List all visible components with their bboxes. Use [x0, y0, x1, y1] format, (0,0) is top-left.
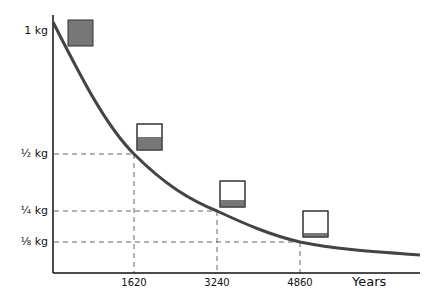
decay-curve [53, 22, 420, 255]
x-label-4860: 4860 [280, 277, 320, 288]
y-label-1kg: 1 kg [2, 24, 48, 37]
sample-box-4 [303, 211, 328, 237]
sample-box-1 [68, 20, 93, 46]
x-label-3240: 3240 [197, 277, 237, 288]
x-axis-title: Years [352, 274, 386, 289]
guide-lines [54, 154, 300, 273]
y-label-eighth: ⅛ kg [2, 235, 48, 248]
y-label-half: ½ kg [2, 147, 48, 160]
sample-box-2 [137, 124, 162, 150]
sample-box-3 [220, 181, 245, 207]
y-label-quarter: ¼ kg [2, 204, 48, 217]
x-label-1620: 1620 [114, 277, 154, 288]
decay-chart: 1 kg ½ kg ¼ kg ⅛ kg 1620 3240 4860 Years [0, 0, 448, 308]
chart-canvas [0, 0, 448, 308]
